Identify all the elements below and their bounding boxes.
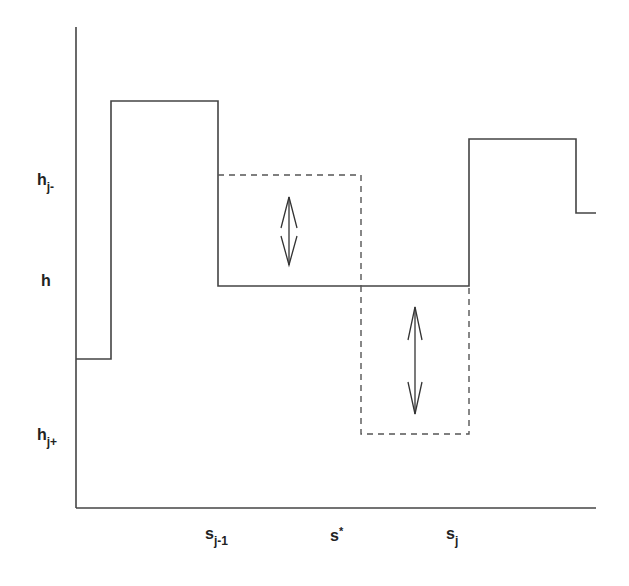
label-sup: *: [339, 525, 343, 537]
label-s-j: sj: [446, 526, 458, 547]
label-sub: j+: [47, 435, 57, 449]
label-sub: j-1: [214, 534, 228, 548]
label-base: s: [446, 525, 455, 542]
label-base: h: [37, 426, 47, 443]
label-h-j-plus: hj+: [37, 427, 57, 448]
double-arrow-upper-icon: [281, 197, 297, 265]
label-base: s: [330, 527, 339, 544]
height-profile: [76, 101, 596, 359]
label-h: h: [41, 273, 51, 289]
label-base: h: [37, 171, 47, 188]
label-h-j-minus: hj-: [37, 172, 54, 193]
label-base: h: [41, 272, 51, 289]
label-sub: j-: [47, 180, 54, 194]
double-arrow-lower-icon: [408, 307, 422, 414]
label-base: s: [205, 525, 214, 542]
label-s-j-minus-1: sj-1: [205, 526, 228, 547]
label-s-star: s*: [330, 526, 343, 544]
step-diagram: [0, 0, 629, 586]
label-sub: j: [455, 534, 458, 548]
